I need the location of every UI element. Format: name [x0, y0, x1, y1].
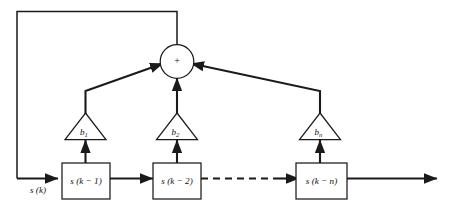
gain-bn: bn — [300, 113, 341, 140]
delay-block-2: s (k − 2) — [153, 163, 201, 199]
summing-junction-operator: + — [174, 55, 180, 66]
delay-block-2-label: s (k − 2) — [161, 176, 192, 186]
delay-block-n: s (k − n) — [296, 163, 347, 199]
tap-lines — [86, 140, 321, 163]
delay-block-1-label: s (k − 1) — [70, 176, 101, 186]
block-diagram-canvas: + b1 b2 bn s (k − 1) — [0, 0, 451, 213]
gain-b1: b1 — [65, 113, 106, 140]
summing-junction: + — [160, 45, 194, 79]
gain-output-lines — [86, 64, 321, 115]
block-diagram-svg: + b1 b2 bn s (k − 1) — [0, 0, 451, 213]
gain-b1-subscript: 1 — [85, 131, 88, 138]
input-signal-label: s (k) — [30, 185, 46, 195]
gain-b2: b2 — [157, 113, 198, 140]
feedback-path — [17, 12, 177, 179]
delay-block-1: s (k − 1) — [62, 163, 110, 199]
delay-block-n-label: s (k − n) — [306, 176, 337, 186]
